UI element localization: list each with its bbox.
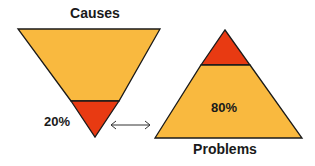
pareto-diagram <box>0 0 315 166</box>
causes-inverted-triangle <box>18 29 160 137</box>
problems-minor-section <box>201 30 250 65</box>
causes-percent-label: 20% <box>44 114 70 129</box>
causes-title: Causes <box>60 5 130 21</box>
problems-title: Problems <box>185 141 265 157</box>
problems-percent-label: 80% <box>204 100 244 115</box>
causes-20-percent-section <box>71 101 119 137</box>
causes-major-section <box>18 29 160 101</box>
problems-triangle <box>155 30 302 138</box>
double-arrow-icon <box>111 121 150 129</box>
